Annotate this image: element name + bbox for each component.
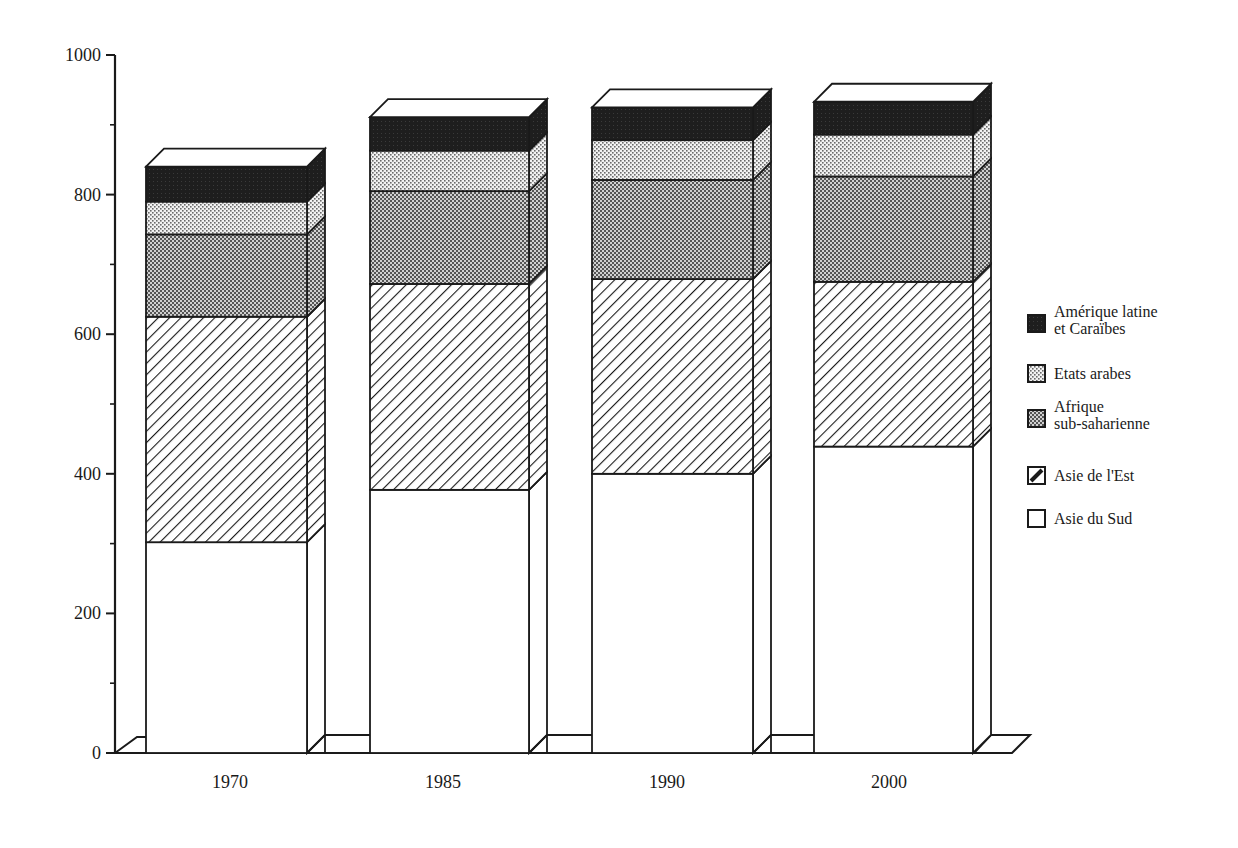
legend-label: Etats arabes <box>1054 365 1131 382</box>
bar-segment-diagonal-hatch <box>592 279 753 474</box>
legend: Amérique latineet CaraïbesEtats arabesAf… <box>1028 303 1158 527</box>
bar-segment-dark-dots <box>370 191 529 284</box>
y-tick-label: 800 <box>74 185 101 205</box>
y-tick-label: 1000 <box>65 45 101 65</box>
bar-side-dark-dots <box>529 173 547 284</box>
bar-side-white <box>753 456 771 753</box>
legend-label: Amérique latine <box>1054 303 1158 321</box>
bars <box>146 84 991 753</box>
bar-segment-diagonal-hatch <box>370 284 529 490</box>
bar-segment-diagonal-hatch <box>814 282 973 447</box>
bar-top-cap <box>592 89 771 107</box>
bar-segment-diagonal-hatch <box>146 317 307 542</box>
legend-label: et Caraïbes <box>1054 320 1126 337</box>
bar-segment-light-dots <box>146 202 307 235</box>
legend-item: Asie du Sud <box>1028 510 1132 527</box>
bar-segment-dark-dots <box>592 180 753 279</box>
x-tick-label: 1990 <box>649 772 685 792</box>
bar-1990 <box>592 89 814 753</box>
legend-label: Asie de l'Est <box>1054 467 1135 484</box>
legend-label: Afrique <box>1054 398 1104 416</box>
bar-side-diagonal-hatch <box>973 264 991 447</box>
y-tick-label: 0 <box>92 743 101 763</box>
bar-segment-light-dots <box>814 135 973 177</box>
bar-segment-black <box>146 167 307 202</box>
legend-swatch <box>1028 365 1045 382</box>
bar-side-dark-dots <box>973 158 991 281</box>
bar-segment-black <box>814 102 973 135</box>
bar-segment-white <box>592 474 753 753</box>
legend-item: Etats arabes <box>1028 365 1131 382</box>
legend-item: Amérique latineet Caraïbes <box>1028 303 1158 337</box>
y-tick-label: 600 <box>74 324 101 344</box>
x-tick-label: 2000 <box>871 772 907 792</box>
bar-1970 <box>146 149 370 753</box>
x-axis-labels: 1970198519902000 <box>212 772 907 792</box>
bar-side-diagonal-hatch <box>753 261 771 474</box>
bar-segment-black <box>370 117 529 151</box>
bar-side-diagonal-hatch <box>529 266 547 490</box>
x-tick-label: 1970 <box>212 772 248 792</box>
bar-segment-black <box>592 107 753 140</box>
y-tick-label: 400 <box>74 464 101 484</box>
bar-side-dark-dots <box>753 162 771 279</box>
x-tick-label: 1985 <box>425 772 461 792</box>
legend-swatch <box>1028 510 1045 527</box>
bar-side-white <box>973 429 991 753</box>
bar-segment-white <box>370 490 529 753</box>
bar-2000 <box>814 84 991 753</box>
bar-side-white <box>307 524 325 753</box>
legend-item: Asie de l'Est <box>1028 467 1135 484</box>
bar-segment-white <box>146 542 307 753</box>
bar-1985 <box>370 99 592 753</box>
bar-top-cap <box>370 99 547 117</box>
bar-top-cap <box>146 149 325 167</box>
legend-label: sub-saharienne <box>1054 415 1150 432</box>
bar-segment-dark-dots <box>814 176 973 281</box>
bar-segment-light-dots <box>370 151 529 191</box>
legend-swatch <box>1028 315 1045 332</box>
legend-item: Afriquesub-saharienne <box>1028 398 1150 432</box>
bar-segment-light-dots <box>592 140 753 180</box>
legend-label: Asie du Sud <box>1054 510 1132 527</box>
bar-segment-white <box>814 447 973 753</box>
bar-side-diagonal-hatch <box>307 299 325 542</box>
y-tick-label: 200 <box>74 603 101 623</box>
bar-segment-dark-dots <box>146 234 307 316</box>
stacked-bar-chart: 02004006008001000 1970198519902000 Améri… <box>0 0 1238 848</box>
bar-side-white <box>529 472 547 753</box>
floor-edge <box>115 737 146 753</box>
legend-swatch <box>1028 410 1045 427</box>
bar-top-cap <box>814 84 991 102</box>
